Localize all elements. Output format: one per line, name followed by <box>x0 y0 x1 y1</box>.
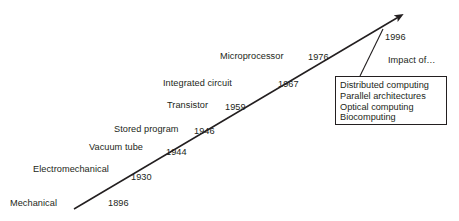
callout-leader-line <box>360 29 383 76</box>
callout-item-optical-computing: Optical computing <box>340 102 446 113</box>
callout-item-biocomputing: Biocomputing <box>340 112 446 123</box>
callout-title: Impact of… <box>388 56 435 65</box>
year-label-1996: 1996 <box>385 33 406 42</box>
year-label-1896: 1896 <box>108 199 129 208</box>
impact-callout-box: Distributed computing Parallel architect… <box>335 76 447 125</box>
year-label-1976: 1976 <box>308 53 329 62</box>
year-label-1944: 1944 <box>166 148 187 157</box>
callout-item-distributed-computing: Distributed computing <box>340 80 446 91</box>
era-label-microprocessor: Microprocessor <box>220 52 284 61</box>
era-label-transistor: Transistor <box>167 101 208 110</box>
era-label-stored-program: Stored program <box>114 125 179 134</box>
timeline-figure: Mechanical Electromechanical Vacuum tube… <box>0 0 459 221</box>
year-label-1967: 1967 <box>278 80 299 89</box>
callout-item-parallel-architectures: Parallel architectures <box>340 91 446 102</box>
year-label-1930: 1930 <box>131 173 152 182</box>
era-label-electromechanical: Electromechanical <box>33 165 109 174</box>
year-label-1959: 1959 <box>225 103 246 112</box>
year-label-1946: 1946 <box>194 127 215 136</box>
era-label-integrated-circuit: Integrated circuit <box>163 79 232 88</box>
era-label-mechanical: Mechanical <box>10 199 57 208</box>
era-label-vacuum-tube: Vacuum tube <box>89 143 143 152</box>
